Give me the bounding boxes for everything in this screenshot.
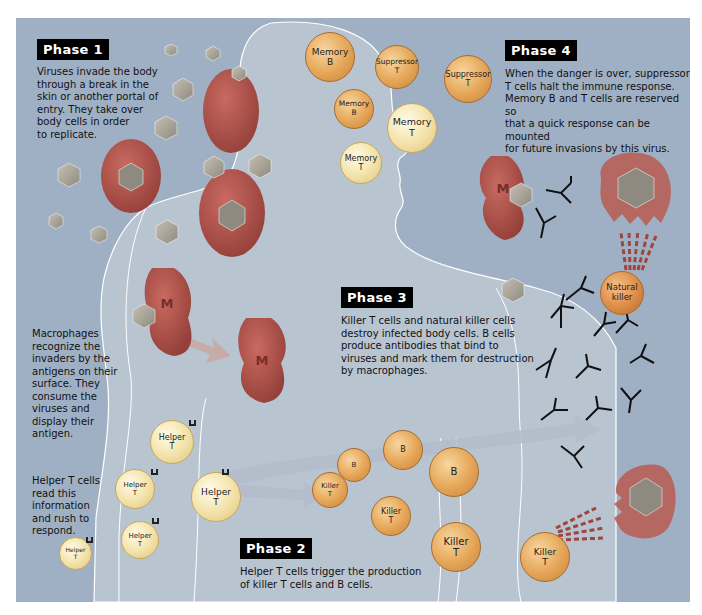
phase-1-label: Phase 1 bbox=[37, 39, 109, 60]
immune-response-diagram: M M M bbox=[16, 18, 690, 602]
b-cell: B bbox=[429, 447, 479, 497]
memory-t-cell: Memory T bbox=[340, 142, 382, 184]
phase-1-description: Viruses invade the body through a break … bbox=[37, 66, 158, 141]
killer-t-cell: Killer T bbox=[431, 522, 481, 572]
memory-b-cell: Memory B bbox=[334, 89, 374, 129]
memory-b-cell: Memory B bbox=[305, 32, 355, 82]
memory-t-cell: Memory T bbox=[387, 103, 437, 153]
helper-t-note: Helper T cells read this information and… bbox=[32, 475, 100, 538]
helper-t-cell: Helper T bbox=[121, 521, 159, 559]
receptor-icon bbox=[152, 518, 159, 524]
helper-t-cell: Helper T bbox=[150, 420, 194, 464]
killer-t-cell: Killer T bbox=[312, 472, 348, 508]
helper-t-cell: Helper T bbox=[191, 472, 241, 522]
suppressor-t-cell: Suppressor T bbox=[444, 55, 492, 103]
phase-2-description: Helper T cells trigger the production of… bbox=[240, 566, 421, 591]
macrophages-note: Macrophages recognize the invaders by th… bbox=[32, 328, 117, 441]
natural-killer-cell: Natural killer bbox=[600, 271, 644, 315]
receptor-icon bbox=[86, 537, 93, 543]
svg-text:M: M bbox=[497, 181, 510, 196]
phase-3-description: Killer T cells and natural killer cells … bbox=[341, 315, 534, 378]
receptor-icon bbox=[189, 420, 196, 426]
svg-text:M: M bbox=[256, 353, 269, 368]
phase-3-label: Phase 3 bbox=[341, 287, 413, 308]
receptor-icon bbox=[151, 469, 158, 475]
suppressor-t-cell: Suppressor T bbox=[375, 45, 419, 89]
killer-t-cell: Killer T bbox=[371, 496, 411, 536]
killer-t-cell: Killer T bbox=[520, 532, 570, 582]
receptor-icon bbox=[222, 469, 229, 475]
phase-2-label: Phase 2 bbox=[240, 538, 312, 559]
b-cell: B bbox=[383, 430, 423, 470]
phase-4-description: When the danger is over, suppressor T ce… bbox=[505, 68, 690, 156]
phase-4-label: Phase 4 bbox=[505, 40, 577, 61]
svg-text:M: M bbox=[161, 296, 174, 311]
helper-t-cell: Helper T bbox=[115, 469, 155, 509]
